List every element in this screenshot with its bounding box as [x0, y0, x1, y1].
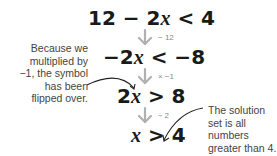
down-arrow-icon — [139, 30, 151, 44]
down-arrow-icon — [139, 69, 151, 83]
down-arrow-icon — [139, 108, 151, 122]
diagram-overlay — [0, 0, 277, 156]
callout-arrow-right-icon — [163, 108, 203, 141]
callout-arrow-left-icon — [87, 78, 135, 89]
